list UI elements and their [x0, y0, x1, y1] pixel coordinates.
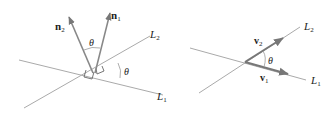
line-l1 [19, 60, 163, 95]
left-diagram: n1 n2 θ θ L2 L1 [19, 9, 167, 108]
label-n1: n1 [111, 9, 121, 23]
label-theta-lines: θ [124, 66, 129, 77]
angle-between-lines-figure: n1 n2 θ θ L2 L1 v2 v1 θ L2 L1 [0, 0, 336, 115]
line-l1 [190, 48, 306, 80]
right-diagram: v2 v1 θ L2 L1 [190, 20, 321, 93]
label-l2-left: L2 [149, 28, 160, 42]
angle-arc-lines [118, 63, 121, 78]
label-theta-normals: θ [89, 37, 94, 48]
vector-v2-arrow [245, 38, 283, 62]
line-l2 [24, 36, 150, 108]
label-n2: n2 [55, 20, 65, 34]
label-l2-right: L2 [303, 20, 314, 34]
label-l1-left: L1 [156, 90, 167, 104]
normal-n1-arrow [95, 13, 110, 73]
label-l1-right: L1 [310, 74, 321, 88]
vector-v1-arrow [245, 62, 288, 74]
angle-arc [263, 51, 265, 67]
label-theta: θ [268, 55, 273, 66]
label-v1: v1 [260, 72, 269, 85]
label-v2: v2 [254, 35, 263, 48]
